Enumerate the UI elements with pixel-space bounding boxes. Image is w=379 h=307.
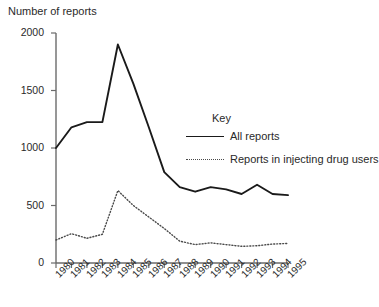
chart-legend: Key All reports Reports in injecting dru… <box>186 112 372 172</box>
y-tick-label: 1000 <box>10 141 44 153</box>
y-tick-label: 500 <box>10 199 44 211</box>
legend-swatch-all-reports <box>186 136 224 137</box>
y-tick-label: 2000 <box>10 26 44 38</box>
legend-label-injecting-drug-users: Reports in injecting drug users <box>230 153 379 165</box>
series-line-injecting-drug-users <box>56 191 288 247</box>
legend-swatch-injecting-drug-users <box>186 159 224 160</box>
legend-title: Key <box>212 112 231 124</box>
legend-label-all-reports: All reports <box>230 130 280 142</box>
y-tick-label: 0 <box>10 256 44 268</box>
y-tick-label: 1500 <box>10 84 44 96</box>
